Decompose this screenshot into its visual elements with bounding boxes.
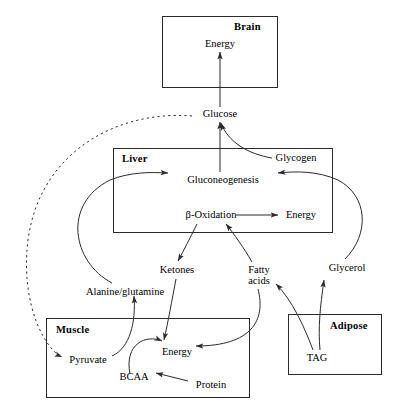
- node-glycerol: Glycerol: [329, 262, 366, 273]
- node-bcaa: BCAA: [119, 371, 148, 382]
- organ-label-muscle: Muscle: [56, 324, 89, 335]
- node-pyruvate: Pyruvate: [69, 354, 106, 365]
- node-ketones: Ketones: [160, 264, 194, 275]
- node-brain-energy: Energy: [205, 38, 235, 49]
- node-liver-energy: Energy: [286, 209, 316, 220]
- organ-label-adipose: Adipose: [330, 320, 368, 331]
- node-gluconeogenesis: Gluconeogenesis: [187, 174, 259, 185]
- node-protein: Protein: [196, 379, 226, 390]
- node-glycogen: Glycogen: [276, 152, 317, 163]
- node-alanine-glutamine: Alanine/glutamine: [86, 286, 164, 297]
- node-glucose: Glucose: [203, 108, 237, 119]
- node-fatty-acids-line1: Fatty: [248, 264, 270, 275]
- organ-label-brain: Brain: [234, 21, 261, 32]
- node-fatty-acids-line2: acids: [248, 274, 270, 285]
- node-tag: TAG: [307, 352, 328, 363]
- node-muscle-energy: Energy: [162, 346, 192, 357]
- node-beta-oxidation: β-Oxidation: [186, 209, 237, 220]
- metabolic-pathway-diagram: Brain Liver Muscle Adipose Energy Glucos…: [0, 0, 400, 412]
- node-fatty-acids: Fatty acids: [239, 265, 279, 286]
- organ-label-liver: Liver: [122, 153, 148, 164]
